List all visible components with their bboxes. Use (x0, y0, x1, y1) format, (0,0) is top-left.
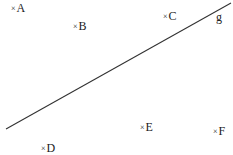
point-label: A (17, 1, 26, 15)
line-g (0, 0, 233, 155)
point-E: ×E (140, 121, 153, 135)
point-label: C (169, 9, 177, 23)
point-D: ×D (41, 142, 55, 155)
cross-marker-icon: × (213, 127, 218, 136)
point-C: ×C (163, 10, 177, 24)
point-label: F (219, 124, 226, 138)
cross-marker-icon: × (41, 144, 46, 153)
point-label: D (47, 141, 56, 155)
cross-marker-icon: × (73, 22, 78, 31)
line-label-g: g (216, 11, 222, 23)
point-A: ×A (11, 2, 25, 16)
cross-marker-icon: × (140, 123, 145, 132)
cross-marker-icon: × (163, 12, 168, 21)
point-F: ×F (213, 125, 225, 139)
point-label: E (146, 120, 153, 134)
diagram-canvas: g ×A ×B ×C ×D ×E ×F (0, 0, 233, 155)
cross-marker-icon: × (11, 4, 16, 13)
point-label: B (79, 19, 87, 33)
point-B: ×B (73, 20, 87, 34)
